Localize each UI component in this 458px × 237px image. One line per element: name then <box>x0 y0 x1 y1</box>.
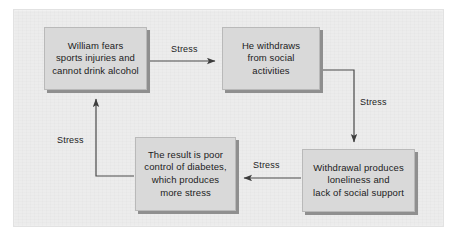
node-william-fears-text: William fears sports injuries and cannot… <box>52 40 139 78</box>
node-withdrawal-produces-loneliness-text: Withdrawal produces loneliness and lack … <box>313 162 404 200</box>
node-result-poor-control: The result is poor control of diabetes, … <box>135 137 236 211</box>
edge-withdraws-to-loneliness <box>321 70 354 142</box>
edge-label-stress-right: Stress <box>360 97 387 107</box>
node-he-withdraws-text: He withdraws from social activities <box>242 40 300 78</box>
edge-label-stress-bottom: Stress <box>253 160 280 170</box>
node-he-withdraws: He withdraws from social activities <box>222 27 320 90</box>
node-withdrawal-produces-loneliness: Withdrawal produces loneliness and lack … <box>302 149 415 212</box>
edge-result-to-william <box>96 99 134 176</box>
node-william-fears: William fears sports injuries and cannot… <box>44 27 147 90</box>
diagram-root: William fears sports injuries and cannot… <box>0 0 458 237</box>
edge-label-stress-top: Stress <box>171 44 198 54</box>
edge-label-stress-left: Stress <box>57 135 84 145</box>
node-result-poor-control-text: The result is poor control of diabetes, … <box>144 149 226 199</box>
